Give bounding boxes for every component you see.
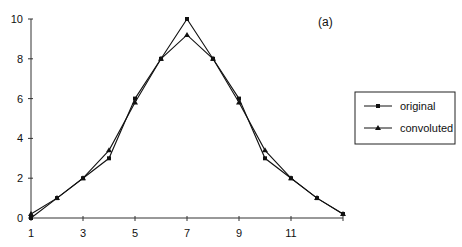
legend-label-original: original xyxy=(400,100,435,112)
y-tick-label: 4 xyxy=(17,132,23,144)
square-marker-icon xyxy=(185,17,189,21)
panel-label: (a) xyxy=(318,15,333,29)
triangle-marker-icon xyxy=(184,32,190,37)
line-chart: 02468101357911 (a) original convoluted xyxy=(0,0,462,247)
x-tick-label: 9 xyxy=(236,227,242,239)
x-tick-label: 5 xyxy=(132,227,138,239)
square-marker-icon xyxy=(107,156,111,160)
x-tick-label: 7 xyxy=(184,227,190,239)
legend: original convoluted xyxy=(355,92,455,144)
y-tick-label: 8 xyxy=(17,53,23,65)
y-tick-label: 2 xyxy=(17,172,23,184)
triangle-marker-icon xyxy=(106,147,112,152)
square-marker-icon xyxy=(263,156,267,160)
axes: 02468101357911 xyxy=(11,13,343,239)
x-tick-label: 11 xyxy=(285,227,296,239)
series-group xyxy=(28,17,346,220)
y-tick-label: 10 xyxy=(11,13,23,25)
triangle-marker-icon xyxy=(340,211,346,216)
y-tick-label: 0 xyxy=(17,212,23,224)
triangle-marker-icon xyxy=(262,147,268,152)
series-line-convoluted xyxy=(31,35,343,214)
x-tick-label: 1 xyxy=(28,227,34,239)
triangle-marker-icon xyxy=(28,211,34,216)
x-tick-label: 3 xyxy=(80,227,86,239)
y-tick-label: 6 xyxy=(17,93,23,105)
square-marker-icon xyxy=(376,104,380,108)
legend-label-convoluted: convoluted xyxy=(400,122,453,134)
series-line-original xyxy=(31,19,343,218)
square-marker-icon xyxy=(29,216,33,220)
